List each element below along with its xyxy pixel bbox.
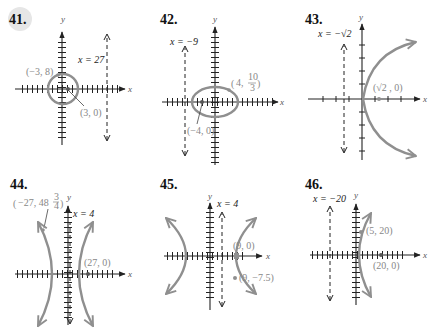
point-label-fraction: ( 4, 10 3 ) (231, 71, 260, 93)
point-label: (27, 0) (84, 257, 111, 269)
svg-text:(: ( (231, 78, 235, 90)
x-axis-label: x (422, 94, 427, 104)
point-label: (−3, 8) (26, 66, 53, 78)
graph-45: 45. y x (9, 0) (9, −7.5) x = 4 (160, 177, 274, 310)
problem-number: 46. (305, 177, 323, 192)
graphs-figure: 41. y x (3, 0) (−3, 8) x = 27 42. y x (−… (0, 0, 435, 330)
problem-number: 44. (10, 177, 28, 192)
leader-line (44, 209, 48, 228)
problem-number: 43. (305, 12, 323, 27)
x-axis-label: x (127, 269, 132, 279)
focus-point (86, 272, 90, 276)
point-marker (359, 230, 363, 234)
y-axis-label: y (66, 192, 71, 202)
x-axis-label: x (422, 250, 427, 260)
svg-text:3: 3 (250, 82, 255, 93)
point-label: (5, 20) (366, 225, 393, 237)
focus-point (379, 253, 383, 257)
svg-text:(: ( (13, 198, 17, 210)
point-marker (56, 73, 60, 77)
problem-number: 45. (160, 177, 178, 192)
graph-46: 46. y x (5, 20) (20, 0) x = −20 (305, 177, 427, 305)
svg-text:): ) (257, 78, 260, 90)
directrix-label: x = −√2 (317, 28, 351, 39)
x-axis-label: x (279, 97, 284, 107)
x-axis-label: x (265, 251, 270, 261)
point-label: (3, 0) (80, 107, 102, 119)
y-axis-label: y (60, 14, 65, 24)
focus-point (377, 97, 381, 101)
svg-text:): ) (60, 198, 63, 210)
x-axis-label: x (127, 84, 132, 94)
point-label-fraction: ( −27, 48 3 4 ) (13, 191, 63, 211)
directrix-label: x = −9 (169, 36, 198, 47)
directrix-label: x = 27 (77, 54, 105, 65)
graph-43: 43. y x (√2 , 0) x = −√2 (305, 12, 427, 160)
point-label: (√2 , 0) (373, 82, 403, 94)
y-axis-label: y (358, 12, 363, 22)
y-axis-label: y (207, 191, 212, 201)
point-marker (233, 276, 237, 280)
focus-point (200, 100, 204, 104)
directrix-label: x = −20 (312, 193, 346, 204)
point-label: (20, 0) (373, 260, 400, 272)
y-axis-ticks (64, 212, 72, 320)
directrix-label: x = 4 (216, 198, 238, 209)
point-label: (9, 0) (233, 240, 255, 252)
graph-44: 44. ( −27, 48 3 4 ) y x (27, 0) x = 4 (10, 177, 132, 326)
problem-number: 41. (9, 12, 27, 27)
problem-number: 42. (160, 12, 178, 27)
focus-point (234, 253, 239, 259)
x-axis-ticks (17, 270, 117, 278)
graph-41: 41. y x (3, 0) (−3, 8) x = 27 (8, 7, 132, 145)
y-axis-label: y (212, 14, 217, 24)
point-label: (−4, 0) (187, 125, 214, 137)
point-label: (9, −7.5) (239, 272, 274, 284)
svg-text:4,: 4, (236, 77, 244, 88)
directrix-label: x = 4 (72, 208, 94, 219)
svg-text:4: 4 (54, 200, 59, 211)
graph-42: 42. y x (−4, 0) ( 4, 10 3 ) x = −9 (160, 12, 284, 165)
y-axis-label: y (353, 190, 358, 200)
svg-text:−27, 48: −27, 48 (18, 197, 49, 208)
x-axis-ticks (165, 98, 273, 106)
